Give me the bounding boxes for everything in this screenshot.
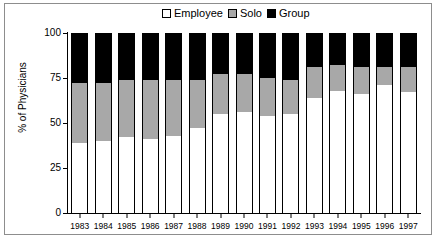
legend-item-employee: Employee bbox=[162, 8, 223, 19]
bar-segment-employee bbox=[377, 85, 392, 213]
x-tick-label: 1987 bbox=[162, 220, 185, 233]
x-tick-slot bbox=[232, 214, 255, 219]
x-tick-slot bbox=[162, 214, 185, 219]
x-tick-label: 1990 bbox=[232, 220, 255, 233]
bar-segment-group bbox=[166, 33, 181, 80]
bar-slot bbox=[303, 33, 326, 213]
bar-slot bbox=[256, 33, 279, 213]
x-tick-label: 1991 bbox=[256, 220, 279, 233]
bar-segment-group bbox=[96, 33, 111, 83]
x-tick-label: 1986 bbox=[138, 220, 161, 233]
x-tick-label: 1994 bbox=[326, 220, 349, 233]
chart-figure: Employee Solo Group % of Physicians 1007… bbox=[0, 0, 436, 240]
bar-slot bbox=[326, 33, 349, 213]
stacked-bar[interactable] bbox=[165, 33, 182, 213]
bar-segment-solo bbox=[213, 74, 228, 114]
bar-segment-group bbox=[72, 33, 87, 83]
bar-segment-employee bbox=[72, 143, 87, 213]
legend-label-solo: Solo bbox=[240, 8, 262, 19]
stacked-bar[interactable] bbox=[118, 33, 135, 213]
bar-segment-employee bbox=[237, 112, 252, 213]
x-tick-slot bbox=[279, 214, 302, 219]
bar-slot bbox=[397, 33, 420, 213]
x-tick-label: 1989 bbox=[209, 220, 232, 233]
bar-group bbox=[68, 33, 420, 213]
x-tick-slot bbox=[303, 214, 326, 219]
y-tick-label: 0 bbox=[55, 207, 61, 218]
x-axis-labels: 1983198419851986198719881989199019911992… bbox=[68, 220, 420, 233]
bar-slot bbox=[91, 33, 114, 213]
stacked-bar[interactable] bbox=[259, 33, 276, 213]
bar-segment-solo bbox=[190, 80, 205, 129]
stacked-bar[interactable] bbox=[189, 33, 206, 213]
stacked-bar[interactable] bbox=[306, 33, 323, 213]
bar-slot bbox=[68, 33, 91, 213]
x-tick-mark bbox=[220, 214, 221, 218]
plot-area bbox=[68, 33, 420, 213]
legend-item-solo: Solo bbox=[228, 8, 262, 19]
x-tick-slot bbox=[350, 214, 373, 219]
x-tick-label: 1993 bbox=[303, 220, 326, 233]
stacked-bar[interactable] bbox=[236, 33, 253, 213]
stacked-bar[interactable] bbox=[329, 33, 346, 213]
bar-slot bbox=[138, 33, 161, 213]
chart-legend: Employee Solo Group bbox=[160, 6, 312, 21]
black-square-icon bbox=[267, 9, 276, 18]
stacked-bar[interactable] bbox=[212, 33, 229, 213]
bar-slot bbox=[279, 33, 302, 213]
x-tick-slot bbox=[373, 214, 396, 219]
bar-segment-solo bbox=[377, 67, 392, 85]
x-tick-mark bbox=[244, 214, 245, 218]
bar-segment-employee bbox=[119, 137, 134, 213]
bar-segment-group bbox=[213, 33, 228, 74]
x-tick-mark bbox=[197, 214, 198, 218]
bar-segment-solo bbox=[237, 74, 252, 112]
x-tick-mark bbox=[384, 214, 385, 218]
stacked-bar[interactable] bbox=[282, 33, 299, 213]
stacked-bar[interactable] bbox=[400, 33, 417, 213]
y-tick-label: 75 bbox=[50, 72, 61, 83]
x-tick-mark bbox=[361, 214, 362, 218]
bar-segment-employee bbox=[354, 94, 369, 213]
y-tick-label: 50 bbox=[50, 117, 61, 128]
bar-segment-solo bbox=[354, 67, 369, 94]
x-axis-ticks bbox=[68, 214, 420, 219]
bar-slot bbox=[373, 33, 396, 213]
x-tick-slot bbox=[115, 214, 138, 219]
x-tick-mark bbox=[290, 214, 291, 218]
x-tick-label: 1992 bbox=[279, 220, 302, 233]
x-tick-mark bbox=[173, 214, 174, 218]
x-tick-slot bbox=[209, 214, 232, 219]
bar-segment-employee bbox=[96, 141, 111, 213]
x-tick-label: 1983 bbox=[68, 220, 91, 233]
bar-segment-group bbox=[237, 33, 252, 74]
bar-segment-group bbox=[354, 33, 369, 67]
bar-segment-solo bbox=[330, 65, 345, 90]
legend-item-group: Group bbox=[267, 8, 310, 19]
stacked-bar[interactable] bbox=[142, 33, 159, 213]
bar-segment-solo bbox=[260, 78, 275, 116]
x-tick-mark bbox=[150, 214, 151, 218]
stacked-bar[interactable] bbox=[95, 33, 112, 213]
x-tick-slot bbox=[185, 214, 208, 219]
bar-segment-employee bbox=[260, 116, 275, 213]
bar-segment-group bbox=[190, 33, 205, 80]
stacked-bar[interactable] bbox=[71, 33, 88, 213]
bar-segment-group bbox=[330, 33, 345, 65]
bar-slot bbox=[185, 33, 208, 213]
bar-segment-employee bbox=[307, 98, 322, 213]
x-tick-mark bbox=[126, 214, 127, 218]
x-tick-label: 1985 bbox=[115, 220, 138, 233]
bar-slot bbox=[115, 33, 138, 213]
x-tick-label: 1996 bbox=[373, 220, 396, 233]
bar-segment-group bbox=[260, 33, 275, 78]
bar-segment-group bbox=[119, 33, 134, 80]
stacked-bar[interactable] bbox=[353, 33, 370, 213]
gray-square-icon bbox=[228, 9, 237, 18]
y-tick-label: 100 bbox=[44, 27, 61, 38]
legend-label-employee: Employee bbox=[174, 8, 223, 19]
x-tick-slot bbox=[397, 214, 420, 219]
bar-segment-solo bbox=[143, 80, 158, 139]
stacked-bar[interactable] bbox=[376, 33, 393, 213]
x-tick-slot bbox=[68, 214, 91, 219]
